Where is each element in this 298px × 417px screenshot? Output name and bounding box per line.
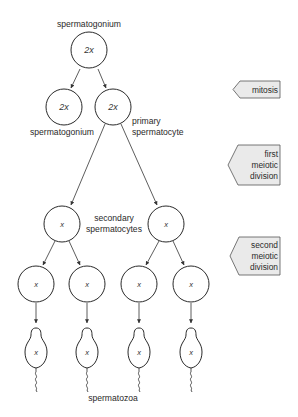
label-top-spermatogonium: spermatogonium [57,19,121,29]
stage-first-meiotic-division: first meiotic division [228,145,280,185]
label-secondary-line1: secondary [94,213,134,223]
stage-first-line3: division [250,171,278,181]
spermatozoon-2: x [76,328,98,392]
label-secondary-line2: spermatocytes [86,224,142,234]
ploidy-primary: 2x [107,102,118,112]
stage-first-line2: meiotic [251,160,278,170]
ploidy-sperm-1: x [33,348,38,357]
spermatogenesis-diagram: spermatogonium 2x 2x spermatogonium 2x p… [0,0,298,417]
ploidy-sperm-3: x [136,348,141,357]
arrow-spermatid-4 [173,241,184,265]
arrow-spermatid-2 [69,241,80,265]
spermatozoon-3: x [128,328,150,392]
label-spermatogonium: spermatogonium [30,127,94,137]
cell-secondary-left: x [44,206,80,242]
ploidy-spermatid-1: x [33,280,38,289]
ploidy-spermatid-3: x [136,280,141,289]
cell-top-spermatogonium: 2x [71,32,107,68]
stage-second-line2: meiotic [251,251,278,261]
ploidy-secondary-right: x [163,220,168,229]
cell-spermatid-3: x [121,266,157,302]
ploidy-sperm-4: x [188,348,193,357]
stage-mitosis-label: mitosis [252,85,278,95]
arrow-spermatid-1 [43,241,55,265]
stage-first-line1: first [265,149,279,159]
stage-second-meiotic-division: second meiotic division [230,237,280,275]
spermatozoon-1: x [25,328,47,392]
ploidy-secondary-left: x [59,220,64,229]
cell-spermatogonium-daughter: 2x [46,89,82,125]
arrow-to-spermatogonium [71,69,80,88]
label-primary-line2: spermatocyte [132,127,184,137]
stage-second-line1: second [251,240,278,250]
cell-secondary-right: x [148,206,184,242]
ploidy-top: 2x [83,45,94,55]
cell-spermatid-4: x [173,266,209,302]
stage-mitosis: mitosis [233,81,280,98]
cell-primary-spermatocyte: 2x [95,89,131,125]
arrow-to-primary [98,69,106,88]
arrow-spermatid-3 [146,241,159,265]
ploidy-sperm-2: x [84,348,89,357]
cell-spermatid-1: x [18,266,54,302]
ploidy-spermatogonium: 2x [58,102,69,112]
spermatozoon-4: x [180,328,202,392]
ploidy-spermatid-2: x [84,280,89,289]
cell-spermatid-2: x [69,266,105,302]
stage-second-line3: division [250,262,278,272]
label-spermatozoa: spermatozoa [88,393,138,403]
ploidy-spermatid-4: x [188,280,193,289]
label-primary-line1: primary [132,116,161,126]
